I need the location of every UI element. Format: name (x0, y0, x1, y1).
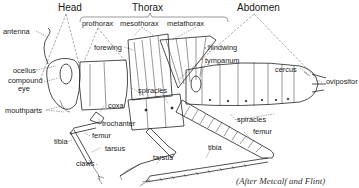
trochanter-label: trochanter (102, 120, 135, 127)
tarsus-foreleg-label: tarsus (105, 145, 125, 152)
ovipositor-label: ovipositor (326, 78, 358, 85)
grasshopper-anatomy-diagram: Head Thorax Abdomen prothorax mesothorax… (0, 0, 359, 188)
region-thorax-label: Thorax (132, 3, 163, 13)
metathorax-label: metathorax (167, 20, 204, 27)
abdominal-spiracles (209, 98, 289, 102)
region-abdomen-label: Abdomen (237, 3, 280, 13)
cercus-label: cercus (275, 66, 297, 73)
femur-hindleg-label: femur (253, 128, 272, 135)
tarsus-midleg-label: tarsus (153, 154, 173, 161)
ocellus-label: ocellus (13, 67, 36, 74)
hindwing-label: hindwing (208, 44, 237, 51)
tibia-hindleg-label: tibia (208, 144, 222, 151)
region-head-label: Head (58, 3, 82, 13)
forewing-label: forewing (94, 44, 122, 51)
tympanum-label: tympanum (205, 57, 240, 64)
grasshopper-illustration (0, 0, 359, 188)
spiracles-thorax-label: spiracles (138, 87, 167, 94)
antenna-label: antenna (3, 28, 30, 35)
compound-eye-label-line2: eye (18, 85, 30, 92)
tibia-foreleg-label: tibia (54, 138, 68, 145)
femur-foreleg-label: femur (92, 132, 111, 139)
mesothorax-label: mesothorax (120, 20, 159, 27)
figure-credit: (After Metcalf and Flint) (236, 177, 325, 186)
mouthparts-label: mouthparts (5, 107, 42, 114)
claws-label: claws (76, 160, 94, 167)
femur-pattern (184, 106, 262, 152)
leader-lines (36, 31, 322, 166)
coxa-label: coxa (108, 102, 124, 109)
prothorax-label: prothorax (82, 20, 113, 27)
spiracles-abdomen-label: spiracles (237, 116, 266, 123)
